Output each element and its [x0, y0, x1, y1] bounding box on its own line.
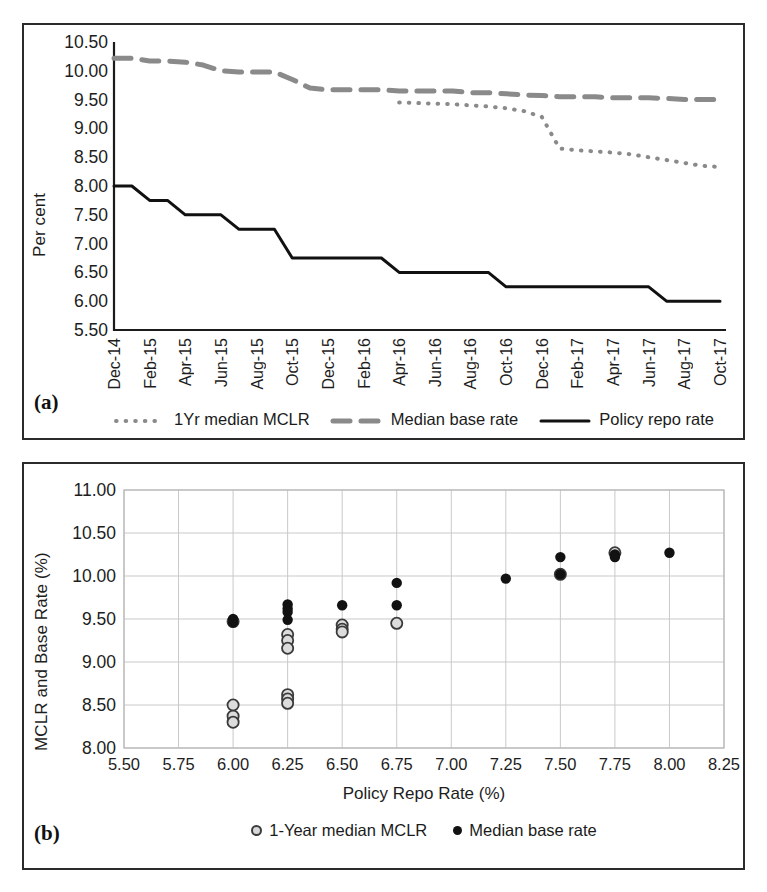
- panel-b: (b) MCLR and Base Rate (%) 11.0010.5010.…: [22, 462, 745, 870]
- panel-b-x-tick: 7.50: [544, 755, 576, 774]
- panel-b-x-tick: 8.25: [708, 755, 740, 774]
- panel-a-x-tick: Jun-15: [213, 338, 231, 387]
- panel-a-x-tick: Jun-17: [641, 338, 659, 387]
- panel-b-point-filled-circle: [501, 573, 511, 583]
- panel-b-point-filled-circle: [555, 552, 565, 562]
- panel-a-x-tick: Aug-15: [249, 338, 267, 390]
- legend-swatch-dashed-icon: [331, 413, 383, 427]
- panel-b-legend-item: 1-Year median MCLR: [251, 821, 427, 840]
- panel-a-x-tick: Oct-15: [284, 338, 302, 386]
- panel-a-x-tick: Oct-17: [712, 338, 730, 386]
- panel-b-point-filled-circle: [610, 552, 620, 562]
- legend-swatch-solid-icon: [539, 413, 591, 427]
- panel-a-x-tick: Feb-16: [356, 338, 374, 389]
- panel-b-point-hollow-circle: [282, 643, 293, 654]
- panel-b-point-filled-circle: [664, 548, 674, 558]
- panel-b-point-hollow-circle: [282, 698, 293, 709]
- panel-b-x-tick: 7.75: [599, 755, 631, 774]
- panel-a-x-tick: Oct-16: [498, 338, 516, 386]
- panel-a-legend-label: 1Yr median MCLR: [174, 410, 310, 429]
- panel-b-point-filled-circle: [392, 578, 402, 588]
- panel-b-legend: 1-Year median MCLRMedian base rate: [124, 821, 724, 840]
- panel-a-x-tick: Dec-15: [320, 338, 338, 390]
- panel-b-x-tick: 7.25: [490, 755, 522, 774]
- panel-b-x-tick: 6.75: [381, 755, 413, 774]
- panel-a-x-tick: Jun-16: [427, 338, 445, 387]
- legend-swatch-hollow-circle-icon: [251, 825, 262, 836]
- panel-a-x-tick: Feb-17: [569, 338, 587, 389]
- panel-a-series-policy-repo-rate: [114, 186, 720, 301]
- panel-b-legend-label: Median base rate: [469, 821, 597, 840]
- panel-b-x-tick: 8.00: [653, 755, 685, 774]
- panel-a-x-tick: Apr-16: [391, 338, 409, 386]
- panel-b-point-filled-circle: [337, 600, 347, 610]
- panel-b-plot-area: [124, 490, 724, 748]
- panel-a-x-tick: Dec-16: [534, 338, 552, 390]
- panel-b-point-hollow-circle: [227, 699, 238, 710]
- panel-b-point-filled-circle: [282, 615, 292, 625]
- panel-b-x-axis-label: Policy Repo Rate (%): [124, 784, 724, 804]
- panel-b-x-tick: 6.25: [272, 755, 304, 774]
- panel-b-x-tick: 6.50: [326, 755, 358, 774]
- panel-b-x-tick: 5.75: [162, 755, 194, 774]
- panel-a: (a) Per cent 10.5010.009.509.008.508.007…: [22, 23, 745, 440]
- panel-a-x-tick: Aug-17: [676, 338, 694, 390]
- panel-a-legend-item: 1Yr median MCLR: [114, 410, 310, 429]
- panel-b-point-hollow-circle: [227, 717, 238, 728]
- figure-container: (a) Per cent 10.5010.009.509.008.508.007…: [0, 0, 767, 892]
- panel-a-legend-item: Policy repo rate: [539, 410, 714, 429]
- panel-a-legend-label: Policy repo rate: [599, 410, 714, 429]
- panel-a-x-tick: Apr-17: [605, 338, 623, 386]
- panel-b-legend-label: 1-Year median MCLR: [269, 821, 427, 840]
- legend-swatch-dotted-icon: [114, 413, 166, 427]
- legend-swatch-filled-circle-icon: [453, 826, 462, 835]
- panel-a-series-median-base-rate: [114, 58, 720, 99]
- panel-a-x-tick: Apr-15: [177, 338, 195, 386]
- panel-a-series-1yr-median-mclr: [399, 102, 720, 167]
- panel-b-point-filled-circle: [228, 617, 238, 627]
- panel-a-x-tick: Dec-14: [106, 338, 124, 390]
- panel-a-legend: 1Yr median MCLRMedian base ratePolicy re…: [114, 410, 714, 429]
- panel-a-legend-item: Median base rate: [331, 410, 519, 429]
- panel-b-point-hollow-circle: [337, 626, 348, 637]
- panel-b-point-hollow-circle: [391, 618, 402, 629]
- panel-b-legend-item: Median base rate: [453, 821, 597, 840]
- panel-b-x-tick: 6.00: [217, 755, 249, 774]
- panel-b-x-tick: 7.00: [435, 755, 467, 774]
- panel-b-x-tick: 5.50: [108, 755, 140, 774]
- panel-a-plot-area: [114, 42, 726, 330]
- panel-b-point-filled-circle: [555, 569, 565, 579]
- panel-a-x-tick: Aug-16: [462, 338, 480, 390]
- panel-b-point-filled-circle: [392, 600, 402, 610]
- panel-a-legend-label: Median base rate: [391, 410, 519, 429]
- panel-a-x-tick: Feb-15: [142, 338, 160, 389]
